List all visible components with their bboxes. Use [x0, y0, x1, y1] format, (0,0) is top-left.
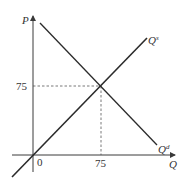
- y-axis-label: P: [21, 14, 29, 26]
- supply-label: Qs: [148, 34, 159, 46]
- y-tick-75: 75: [16, 80, 28, 92]
- demand-line: [40, 23, 157, 145]
- supply-demand-chart: P Q 0 75 75 Qs Qd: [0, 0, 185, 183]
- origin-label: 0: [37, 156, 43, 168]
- x-axis-label: Q: [169, 158, 177, 170]
- demand-label: Qd: [158, 143, 170, 155]
- x-tick-75: 75: [95, 157, 107, 169]
- supply-line: [12, 38, 147, 177]
